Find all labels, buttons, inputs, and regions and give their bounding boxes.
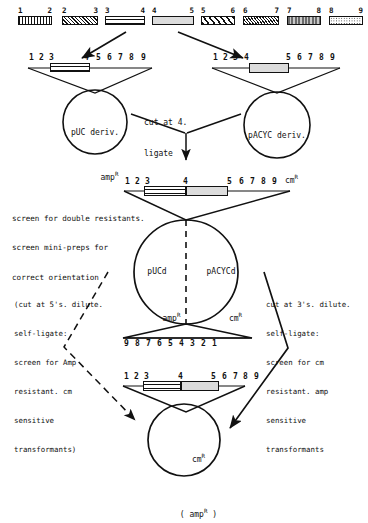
num-1: 1 xyxy=(124,372,129,381)
num-9: 9 xyxy=(141,53,146,62)
bottom-construct-insert-right xyxy=(181,381,219,391)
num-6: 6 xyxy=(297,53,302,62)
final-marker-superscript: R xyxy=(202,453,205,459)
num-6: 6 xyxy=(107,53,112,62)
bottom-construct-insert-left xyxy=(143,381,181,391)
hybrid-left-marker-superscript: R xyxy=(177,312,180,318)
left-protocol-line-6: transformants) xyxy=(14,445,103,455)
num-8: 8 xyxy=(135,339,140,348)
num-7: 7 xyxy=(250,177,255,186)
left-protocol-block: (cut at 5's. dilute. self-ligate: screen… xyxy=(14,281,103,474)
num-6: 6 xyxy=(222,372,227,381)
num-7: 7 xyxy=(308,53,313,62)
final-marker: cm xyxy=(192,455,202,464)
num-4: 4 xyxy=(183,177,188,186)
cut-ligate-line2: ligate xyxy=(144,149,187,159)
num-2: 2 xyxy=(134,372,139,381)
num-1: 1 xyxy=(212,339,217,348)
num-4: 4 xyxy=(244,53,249,62)
num-4: 4 xyxy=(179,339,184,348)
num-8: 8 xyxy=(129,53,134,62)
right-protocol-line-3: screen for cm xyxy=(266,358,351,368)
num-3: 3 xyxy=(144,372,149,381)
pacyc-marker-superscript: R xyxy=(295,174,298,180)
middle-construct-insert-left xyxy=(144,186,186,196)
screen-line-2: screen mini-preps for xyxy=(12,243,145,253)
left-protocol-line-3: screen for Amp xyxy=(14,358,103,368)
final-secondary-close: ) xyxy=(207,509,217,518)
num-5: 5 xyxy=(211,372,216,381)
right-protocol-line-5: sensitive xyxy=(266,416,351,426)
left-protocol-line-5: sensitive xyxy=(14,416,103,426)
num-2: 2 xyxy=(223,53,228,62)
hybrid-right-name: pACYCd xyxy=(192,267,250,276)
num-5: 5 xyxy=(96,53,101,62)
left-construct-insert xyxy=(50,63,90,72)
puc-marker-superscript: R xyxy=(115,171,118,177)
right-protocol-line-2: self-ligate: xyxy=(266,329,351,339)
right-construct-insert xyxy=(249,63,289,73)
hybrid-left-label: pUCd ampR xyxy=(132,249,182,350)
screen-line-1: screen for double resistants. xyxy=(12,214,145,224)
num-8: 8 xyxy=(243,372,248,381)
num-2: 2 xyxy=(135,177,140,186)
right-protocol-line-1: cut at 3's. dilute. xyxy=(266,300,351,310)
num-9: 9 xyxy=(124,339,129,348)
num-4: 4 xyxy=(178,372,183,381)
num-9: 9 xyxy=(272,177,277,186)
hybrid-right-marker: cm xyxy=(229,314,239,323)
num-1: 1 xyxy=(213,53,218,62)
middle-construct-insert-right xyxy=(186,186,228,196)
num-3: 3 xyxy=(49,53,54,62)
puc-marker: amp xyxy=(100,173,114,182)
num-7: 7 xyxy=(233,372,238,381)
num-5: 5 xyxy=(168,339,173,348)
middle-construct-bottom-numbers: 9 8 7 6 5 4 3 2 1 xyxy=(123,339,258,351)
left-construct-numbers: 1 2 3 4 5 6 7 8 9 xyxy=(28,53,156,65)
num-2: 2 xyxy=(39,53,44,62)
num-7: 7 xyxy=(118,53,123,62)
num-3: 3 xyxy=(145,177,150,186)
num-3: 3 xyxy=(233,53,238,62)
num-7: 7 xyxy=(146,339,151,348)
left-protocol-line-4: resistant. cm xyxy=(14,387,103,397)
num-6: 6 xyxy=(239,177,244,186)
num-5: 5 xyxy=(227,177,232,186)
num-5: 5 xyxy=(286,53,291,62)
num-3: 3 xyxy=(190,339,195,348)
final-secondary-open: ( amp xyxy=(180,509,204,518)
puc-name: pUC deriv. xyxy=(55,128,135,137)
hybrid-left-marker: amp xyxy=(162,314,176,323)
hybrid-right-marker-superscript: R xyxy=(239,312,242,318)
hybrid-right-label: pACYCd cmR xyxy=(192,249,250,350)
final-plasmid-label: cmR ( ampR ) xyxy=(146,426,222,523)
right-protocol-line-4: resistant. amp xyxy=(266,387,351,397)
num-1: 1 xyxy=(29,53,34,62)
num-9: 9 xyxy=(254,372,259,381)
cut-ligate-line1: cut at 4. xyxy=(144,118,187,128)
hybrid-left-name: pUCd xyxy=(132,267,182,276)
left-construct-funnel xyxy=(28,68,152,93)
right-protocol-line-6: transformants xyxy=(266,445,351,455)
num-9: 9 xyxy=(330,53,335,62)
num-6: 6 xyxy=(157,339,162,348)
num-1: 1 xyxy=(125,177,130,186)
pacyc-plasmid-label: pACYC deriv. cmR xyxy=(232,113,322,212)
left-protocol-line-1: (cut at 5's. dilute. xyxy=(14,300,103,310)
left-protocol-line-2: self-ligate: xyxy=(14,329,103,339)
num-8: 8 xyxy=(261,177,266,186)
num-4: 4 xyxy=(84,53,89,62)
pacyc-name: pACYC deriv. xyxy=(232,131,322,140)
cut-ligate-step-label: cut at 4. ligate xyxy=(144,97,187,180)
right-protocol-block: cut at 3's. dilute. self-ligate: screen … xyxy=(266,281,351,474)
num-2: 2 xyxy=(201,339,206,348)
num-8: 8 xyxy=(319,53,324,62)
